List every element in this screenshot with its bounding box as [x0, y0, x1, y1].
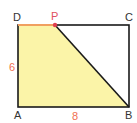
dimension-ad: 6	[9, 61, 15, 73]
point-p-marker	[53, 23, 57, 27]
dimension-ab: 8	[72, 110, 78, 122]
label-p: P	[51, 10, 58, 22]
shaded-trapezoid-adpb	[18, 25, 129, 107]
label-d: D	[13, 11, 21, 23]
label-c: C	[125, 11, 133, 23]
label-b: B	[125, 109, 132, 121]
label-a: A	[14, 109, 22, 121]
rectangle-diagram: D P C A B 6 8	[0, 0, 137, 123]
